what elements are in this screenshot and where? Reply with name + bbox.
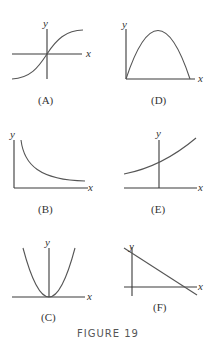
panel-label: (E) xyxy=(151,203,165,216)
x-axis-label: x xyxy=(197,181,203,193)
panel-c: y x (C) xyxy=(12,236,92,324)
x-axis-label: x xyxy=(85,47,91,59)
figure-19: y x (A) y x (D) y x (B) y x (E) y x (C) xyxy=(0,0,221,353)
panel-d: y x (D) xyxy=(121,18,203,107)
figure-caption: FIGURE 19 xyxy=(77,328,139,339)
panel-label: (C) xyxy=(41,311,56,324)
y-axis-label: y xyxy=(128,240,134,252)
x-axis-label: x xyxy=(197,72,203,84)
panel-label: (A) xyxy=(38,94,54,107)
x-axis-label: x xyxy=(197,280,203,292)
panel-label: (F) xyxy=(153,301,167,314)
y-axis-label: y xyxy=(9,128,15,140)
y-axis-label: y xyxy=(121,18,127,30)
y-axis-label: y xyxy=(44,236,50,248)
x-axis-label: x xyxy=(86,290,92,302)
x-axis-label: x xyxy=(87,181,93,193)
increasing-curve xyxy=(124,138,196,174)
panel-f: y x (F) xyxy=(124,240,203,314)
panel-e: y x (E) xyxy=(124,127,203,216)
y-axis-label: y xyxy=(155,127,161,139)
y-axis-label: y xyxy=(42,17,48,29)
panel-a: y x (A) xyxy=(12,17,91,107)
panel-b: y x (B) xyxy=(9,128,93,216)
decreasing-curve xyxy=(21,140,85,181)
panel-label: (D) xyxy=(151,94,167,107)
parabola-arch xyxy=(126,31,190,80)
panel-label: (B) xyxy=(38,203,53,216)
decreasing-line xyxy=(124,248,197,295)
